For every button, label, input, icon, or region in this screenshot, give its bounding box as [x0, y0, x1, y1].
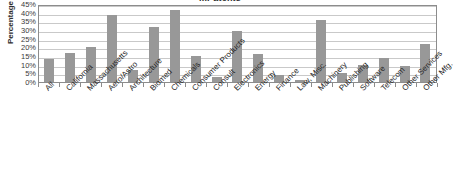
y-axis-tick-label: 10%: [12, 62, 36, 70]
y-axis-tick-label: 35%: [12, 19, 36, 27]
y-axis-tick-label: 40%: [12, 10, 36, 18]
y-axis-tick-label: 30%: [12, 27, 36, 35]
y-axis-tick-label: 25%: [12, 36, 36, 44]
x-axis-tick-mark: [437, 83, 438, 87]
x-axis-category-labels: AllCaliforniaMassachusettsAero/AstroArch…: [38, 87, 437, 183]
y-axis-tick-label: 15%: [12, 53, 36, 61]
bar-slot: [60, 6, 81, 82]
chart-title: ...Patents: [0, 0, 440, 2]
y-axis-tick-labels: 45%40%35%30%25%20%15%10%5%0%: [12, 5, 36, 83]
y-axis-tick-label: 0%: [12, 79, 36, 87]
bar-slot: [39, 6, 60, 82]
y-axis-tick-label: 20%: [12, 45, 36, 53]
y-axis-tick-label: 5%: [12, 71, 36, 79]
bar: [44, 59, 54, 82]
y-axis-tick-label: 45%: [12, 1, 36, 9]
